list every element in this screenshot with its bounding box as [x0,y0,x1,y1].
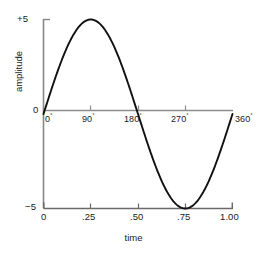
x-label-100: 1.00 [220,212,239,222]
degree-symbol-icon: ° [92,112,95,118]
deg-label-270: 270° [171,113,189,124]
x-label-50: .50 [130,212,144,222]
deg-label-180: 180° [124,113,142,124]
degree-symbol-icon: ° [139,112,142,118]
y-label-plus5: +5 [17,14,28,24]
x-label-75: .75 [177,212,191,222]
x-axis-title: time [0,232,267,243]
y-label-zero: 0 [33,105,38,115]
degree-symbol-icon: ° [50,112,53,118]
x-label-0: 0 [41,212,46,222]
deg-label-360: 360° [235,113,253,124]
x-label-25: .25 [82,212,96,222]
sine-wave-chart: +5 0 −5 0° 90° 180° 270° 360° 0 .25 .50 … [0,0,267,256]
degree-symbol-icon: ° [250,112,253,118]
y-label-minus5: −5 [25,202,36,212]
deg-label-90: 90° [82,113,95,124]
deg-label-0: 0° [45,113,53,124]
y-axis-title: amplitude [13,32,24,112]
degree-symbol-icon: ° [186,112,189,118]
